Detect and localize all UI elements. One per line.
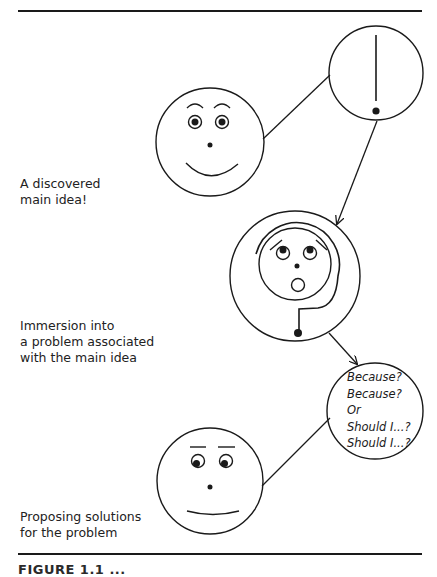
question-line: Or xyxy=(347,402,411,419)
flat-mouth xyxy=(187,511,239,515)
label-discovered-main-idea: A discovered main idea! xyxy=(20,176,101,208)
nose xyxy=(208,485,212,489)
right-eyebrow xyxy=(214,104,230,108)
connector-face1-to-idea xyxy=(263,75,330,139)
exclamation-bubble xyxy=(329,26,423,120)
label-line: Proposing solutions xyxy=(20,509,141,525)
face-happy xyxy=(156,88,264,196)
bottom-rule xyxy=(18,553,422,555)
questions-text: Because? Because? Or Should I...? Should… xyxy=(347,369,411,452)
nose xyxy=(295,264,299,268)
label-line: A discovered xyxy=(20,176,101,192)
label-immersion: Immersion into a problem associated with… xyxy=(20,318,154,366)
arrow-immersion-to-questions xyxy=(329,333,357,364)
left-eyebrow xyxy=(187,104,203,108)
immersion-bubble xyxy=(230,211,360,341)
face-surprised xyxy=(259,228,331,300)
label-line: main idea! xyxy=(20,192,101,208)
label-line: for the problem xyxy=(20,525,141,541)
nose xyxy=(208,143,212,147)
o-mouth xyxy=(292,279,305,292)
figure-caption-truncated: FIGURE 1.1 ... xyxy=(18,562,126,577)
arrow-idea-to-immersion xyxy=(337,121,377,224)
connector-questions-to-face3 xyxy=(262,418,330,486)
label-line: Immersion into xyxy=(20,318,154,334)
question-line: Because? xyxy=(347,386,411,403)
question-line: Because? xyxy=(347,369,411,386)
smile-mouth xyxy=(186,163,238,176)
question-line: Should I...? xyxy=(347,435,411,452)
label-line: a problem associated xyxy=(20,334,154,350)
question-line: Should I...? xyxy=(347,419,411,436)
face-thoughtful xyxy=(157,428,263,534)
label-line: with the main idea xyxy=(20,350,154,366)
label-proposing-solutions: Proposing solutions for the problem xyxy=(20,509,141,541)
